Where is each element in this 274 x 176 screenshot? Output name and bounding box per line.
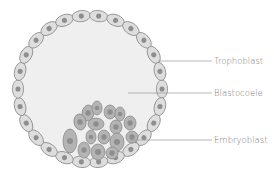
embryoblast-cell [88, 118, 104, 130]
embryoblast-cell [92, 101, 102, 115]
embryoblast-cell [124, 116, 136, 130]
embryoblast-cell [63, 129, 77, 153]
label-embryoblast: Embryoblast [214, 135, 268, 145]
trophoblast-cell [12, 80, 23, 98]
embryoblast-cell [106, 147, 118, 159]
embryoblast-cell [91, 144, 105, 160]
label-trophoblast: Trophoblast [214, 56, 263, 66]
embryoblast-cell [126, 131, 138, 143]
embryoblast-cell [98, 130, 110, 144]
embryoblast-cell [78, 142, 90, 158]
label-blastocoele: Blastocoele [214, 88, 263, 98]
embryoblast-cell [110, 120, 122, 134]
embryoblast-cell [86, 130, 96, 144]
embryoblast-cell [104, 105, 116, 119]
embryoblast-cell [115, 107, 125, 121]
trophoblast-cell [156, 80, 167, 98]
